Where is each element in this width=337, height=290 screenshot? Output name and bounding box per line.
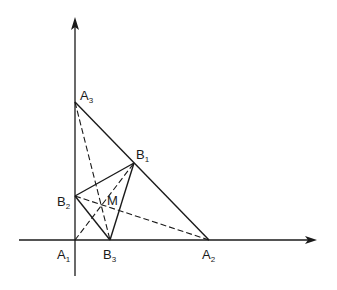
segment-A1-B1 <box>75 163 134 240</box>
point-labels: A3 B1 B2 M A1 B3 A2 <box>57 88 216 264</box>
label-A3: A3 <box>80 88 94 105</box>
label-B3: B3 <box>103 247 117 264</box>
label-B1: B1 <box>136 147 150 164</box>
geometry-diagram: A3 B1 B2 M A1 B3 A2 <box>0 0 337 290</box>
axes <box>19 17 317 276</box>
label-A1: A1 <box>57 247 71 264</box>
label-B2: B2 <box>57 194 71 211</box>
label-A2: A2 <box>202 247 216 264</box>
segment-A3-B3 <box>75 102 110 240</box>
label-M: M <box>107 193 118 208</box>
solid-segments <box>75 102 209 240</box>
segment-B2-A2 <box>75 196 209 240</box>
segment-A3-A2 <box>75 102 209 240</box>
